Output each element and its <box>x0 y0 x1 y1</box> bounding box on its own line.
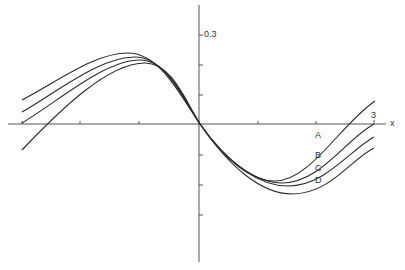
y-tick-label: 0.3 <box>204 30 217 39</box>
x-axis-label: x <box>390 119 395 128</box>
curve-label-b: B <box>315 151 321 160</box>
chart-canvas <box>0 0 405 270</box>
curve-label-c: C <box>315 164 322 173</box>
curve-label-d: D <box>315 176 322 185</box>
x-tick-label: 3 <box>371 111 376 120</box>
curve-label-a: A <box>315 131 321 140</box>
